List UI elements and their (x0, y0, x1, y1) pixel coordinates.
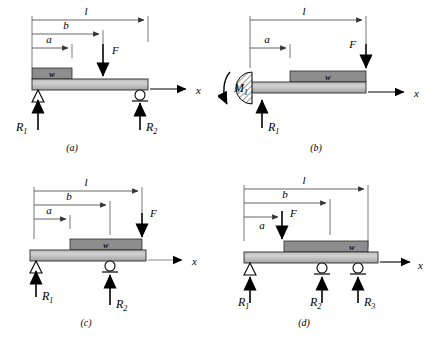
distributed-load-label: w (325, 73, 331, 82)
x-axis: x (368, 87, 419, 99)
beam (244, 252, 378, 263)
reaction-1-arrow: R1 (36, 271, 53, 305)
point-load-label: F (111, 44, 119, 56)
reaction-2-label: R2 (115, 297, 127, 313)
roller-support-2 (314, 263, 330, 274)
dimension-a: a (250, 33, 286, 48)
panel-caption-c: (c) (80, 317, 92, 329)
extension-lines (244, 185, 368, 247)
dimension-a: a (244, 217, 278, 231)
reaction-2-arrow: R2 (309, 277, 322, 311)
roller-support (102, 261, 118, 272)
distributed-load-block: w (290, 71, 366, 82)
dimension-b-label: b (63, 19, 69, 31)
dimension-b: b (32, 19, 99, 34)
distributed-load-label: w (103, 241, 109, 250)
dimension-a: a (34, 204, 66, 219)
reaction-2-arrow: R2 (140, 103, 157, 136)
reaction-1-arrow: R1 (15, 100, 38, 136)
reaction-1-arrow: R1 (237, 277, 250, 311)
dimension-a-label: a (259, 219, 265, 231)
panel-b: l a w F M1 (218, 0, 436, 168)
dimension-b-label: b (66, 190, 72, 202)
beam (30, 250, 146, 261)
x-axis: x (148, 255, 197, 267)
reaction-3-label: R3 (363, 295, 375, 311)
dimension-b: b (244, 188, 326, 203)
reaction-1-label: R1 (15, 120, 27, 136)
panel-caption-b: (b) (310, 142, 322, 154)
pin-support (244, 263, 256, 275)
dimension-l: l (250, 5, 362, 20)
beam (250, 82, 366, 93)
panel-caption-d: (d) (298, 317, 310, 329)
panel-caption-a: (a) (66, 142, 78, 154)
point-load-label: F (149, 207, 157, 219)
distributed-load-block: w (284, 241, 368, 252)
dimension-a: a (32, 33, 68, 48)
dimension-a-label: a (264, 33, 270, 45)
dimension-l-label: l (302, 5, 305, 17)
distributed-load-label: w (49, 70, 55, 79)
reaction-1-label: R1 (267, 120, 279, 136)
x-axis-label: x (417, 259, 423, 271)
panel-a: l b a w F (0, 0, 218, 168)
reaction-1-label: R1 (41, 289, 53, 305)
beam-diagram-figure: l b a w F (0, 0, 436, 337)
distributed-load-label: w (349, 243, 355, 252)
reaction-2-label: R2 (145, 120, 157, 136)
x-axis: x (150, 84, 201, 96)
dimension-l: l (32, 5, 144, 20)
distributed-load-block: w (70, 239, 142, 250)
reaction-1-arrow: R1 (262, 100, 279, 136)
dimension-a-label: a (46, 204, 52, 216)
x-axis: x (380, 259, 423, 271)
x-axis-label: x (413, 87, 419, 99)
reaction-2-arrow: R2 (110, 275, 127, 313)
point-load-label: F (348, 38, 356, 50)
beam (32, 79, 148, 90)
roller-support-3 (350, 263, 366, 274)
panel-d: l b a F w (218, 169, 436, 337)
reaction-3-arrow: R3 (358, 277, 375, 311)
dimension-l-label: l (84, 176, 87, 188)
panel-c: l b a w F (0, 169, 218, 337)
reaction-2-label: R2 (309, 295, 321, 311)
point-load-arrow: F (103, 44, 119, 76)
distributed-load-block: w (32, 68, 72, 79)
dimension-l-label: l (84, 5, 87, 17)
x-axis-label: x (191, 255, 197, 267)
point-load-arrow: F (348, 38, 366, 68)
dimension-a-label: a (46, 33, 52, 45)
roller-support (132, 90, 148, 101)
reaction-1-label: R1 (237, 295, 249, 311)
point-load-arrow: F (142, 207, 157, 237)
dimension-b: b (34, 190, 106, 205)
dimension-l: l (34, 176, 138, 191)
x-axis-label: x (195, 84, 201, 96)
dimension-l: l (244, 174, 364, 189)
point-load-arrow: F (282, 207, 297, 239)
dimension-b-label: b (282, 188, 288, 200)
point-load-label: F (289, 207, 297, 219)
dimension-l-label: l (302, 174, 305, 186)
